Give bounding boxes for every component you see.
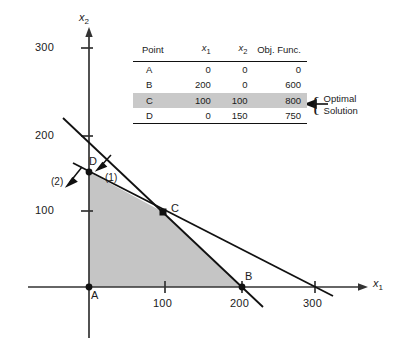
table-row-optimal: C 100 100 800 [133, 93, 307, 108]
cell-x1: 0 [180, 61, 217, 77]
y-axis-label-sub: 2 [85, 17, 89, 26]
table-header: Point x1 x2 Obj. Func. [133, 40, 307, 61]
constraint-line-2-tag: (2) [51, 177, 63, 187]
column-header-point: Point [133, 40, 180, 61]
point-label-c: C [171, 203, 179, 214]
cell-x1: 100 [180, 93, 217, 108]
column-header-x1: x1 [180, 40, 217, 61]
column-header-obj-func: Obj. Func. [256, 40, 307, 61]
cell-x1: 0 [180, 108, 217, 124]
feasible-region [89, 172, 242, 287]
table-header-row: Point x1 x2 Obj. Func. [133, 40, 307, 61]
vertex-dot-c [160, 209, 167, 216]
constraint-line-1-tag: (1) [105, 173, 117, 183]
x-tick-label-100: 100 [153, 298, 172, 309]
table-row: A 0 0 0 [133, 61, 307, 77]
cell-obj: 0 [256, 61, 307, 77]
vertex-summary-table: Point x1 x2 Obj. Func. A 0 0 0 B 200 0 [133, 40, 307, 124]
cell-x1: 200 [180, 77, 217, 92]
cell-x2: 0 [217, 61, 256, 77]
point-label-b: B [245, 271, 252, 282]
cell-obj: 750 [256, 108, 307, 124]
table-row: D 0 150 750 [133, 108, 307, 124]
leader-arrow-line-2 [67, 167, 82, 186]
x-axis-label: x1 [373, 278, 383, 292]
point-label-a: A [91, 290, 98, 301]
optimal-solution-line1: Optimal [324, 93, 357, 104]
cell-point: A [133, 61, 180, 77]
y-tick-label-200: 200 [35, 130, 54, 141]
cell-point: C [133, 93, 180, 108]
column-header-x2-sub: 2 [243, 47, 247, 56]
vertex-dot-d [86, 169, 93, 176]
x-tick-label-200: 200 [230, 298, 249, 309]
y-tick-label-300: 300 [35, 42, 54, 53]
curly-brace-icon: { [310, 94, 321, 115]
optimal-solution-annotation: { Optimal Solution [310, 93, 358, 116]
cell-x2: 100 [217, 93, 256, 108]
y-tick-label-100: 100 [35, 205, 54, 216]
cell-point: D [133, 108, 180, 124]
linear-programming-figure: 300 200 100 100 200 300 x2 x1 A B C D (1… [0, 0, 402, 347]
table-row: B 200 0 600 [133, 77, 307, 92]
cell-obj: 600 [256, 77, 307, 92]
x-axis-label-sub: 1 [379, 283, 383, 292]
table-body: A 0 0 0 B 200 0 600 C 100 100 800 D 0 15… [133, 61, 307, 124]
optimal-solution-line2: Solution [324, 105, 358, 116]
point-label-d: D [89, 156, 97, 167]
y-axis-label: x2 [79, 12, 89, 26]
cell-x2: 0 [217, 77, 256, 92]
cell-point: B [133, 77, 180, 92]
vertex-dot-b [239, 284, 246, 291]
cell-x2: 150 [217, 108, 256, 124]
cell-obj: 800 [256, 93, 307, 108]
optimal-solution-text: Optimal Solution [324, 93, 358, 116]
x-tick-label-300: 300 [303, 298, 322, 309]
column-header-x2: x2 [217, 40, 256, 61]
column-header-x1-sub: 1 [207, 47, 211, 56]
